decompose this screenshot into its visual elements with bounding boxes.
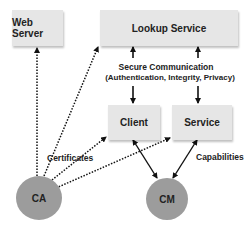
node-lookup-service-label: Lookup Service [132, 23, 206, 34]
secure-comm-subtitle: (Authentication, Integrity, Privacy) [100, 73, 240, 82]
node-ca: CA [16, 176, 62, 220]
node-client-label: Client [120, 117, 148, 128]
node-web-server: Web Server [12, 10, 63, 46]
cap-edge-service [173, 140, 197, 178]
node-web-server-label: Web Server [12, 17, 63, 39]
secure-comm-title: Secure Communication [106, 62, 226, 72]
capabilities-label: Capabilities [196, 152, 244, 162]
node-ca-label: CA [32, 193, 46, 204]
node-lookup-service: Lookup Service [100, 10, 238, 46]
certificates-label: Certificates [47, 153, 93, 163]
node-cm-label: CM [159, 194, 175, 205]
node-service: Service [172, 105, 232, 140]
node-cm: CM [146, 178, 188, 220]
node-service-label: Service [184, 117, 220, 128]
node-client: Client [108, 105, 160, 140]
